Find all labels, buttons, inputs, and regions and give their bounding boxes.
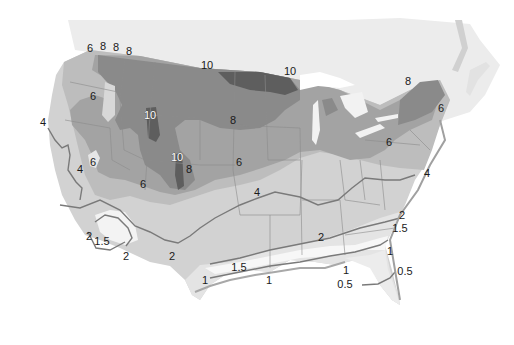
contour-label-az-6: 6	[140, 178, 146, 190]
contour-label-nw-6: 6	[87, 42, 93, 54]
contour-label-fl-0.5b: 0.5	[337, 278, 352, 290]
contour-label-lakes-10: 10	[284, 65, 296, 77]
contour-label-sc-1.5: 1.5	[392, 222, 407, 234]
contour-label-sw-2a: 2	[86, 230, 92, 242]
contour-label-gulf-2: 2	[318, 231, 324, 243]
contour-label-ne-6a: 6	[438, 102, 444, 114]
contour-label-sw-2b: 2	[123, 250, 129, 262]
contour-label-mt-10: 10	[144, 109, 156, 121]
contour-label-nw-8a: 8	[100, 40, 106, 52]
contour-label-mt-6: 6	[90, 90, 96, 102]
contour-label-west-4: 4	[40, 116, 46, 128]
contour-label-ne-8: 8	[405, 75, 411, 87]
contour-label-nw-8c: 8	[126, 45, 132, 57]
contour-label-nv-6: 6	[90, 156, 96, 168]
contour-label-plains-8: 8	[230, 114, 236, 126]
contour-label-sc-2: 2	[399, 209, 405, 221]
contour-label-mid-6: 6	[236, 156, 242, 168]
contour-label-va-4: 4	[424, 167, 430, 179]
contour-label-tx-1: 1	[202, 274, 208, 286]
contour-label-fl-1: 1	[343, 264, 349, 276]
contour-map: 688810108666108461086464421.521.52221.51…	[0, 0, 514, 345]
contour-label-tx-1.5: 1.5	[231, 261, 246, 273]
contour-label-nm-2: 2	[169, 250, 175, 262]
contour-label-co-10: 10	[171, 151, 183, 163]
contour-label-north-10: 10	[201, 59, 213, 71]
contour-label-co-8: 8	[186, 163, 192, 175]
contour-label-la-1: 1	[266, 274, 272, 286]
contour-label-mid-4: 4	[254, 186, 260, 198]
contour-label-nw-8b: 8	[113, 41, 119, 53]
contour-label-ne-6b: 6	[386, 136, 392, 148]
contour-label-ca-4: 4	[77, 163, 83, 175]
contour-label-fl-0.5a: 0.5	[397, 265, 412, 277]
contour-label-ga-1: 1	[387, 245, 393, 257]
contour-label-sw-1.5: 1.5	[94, 235, 109, 247]
